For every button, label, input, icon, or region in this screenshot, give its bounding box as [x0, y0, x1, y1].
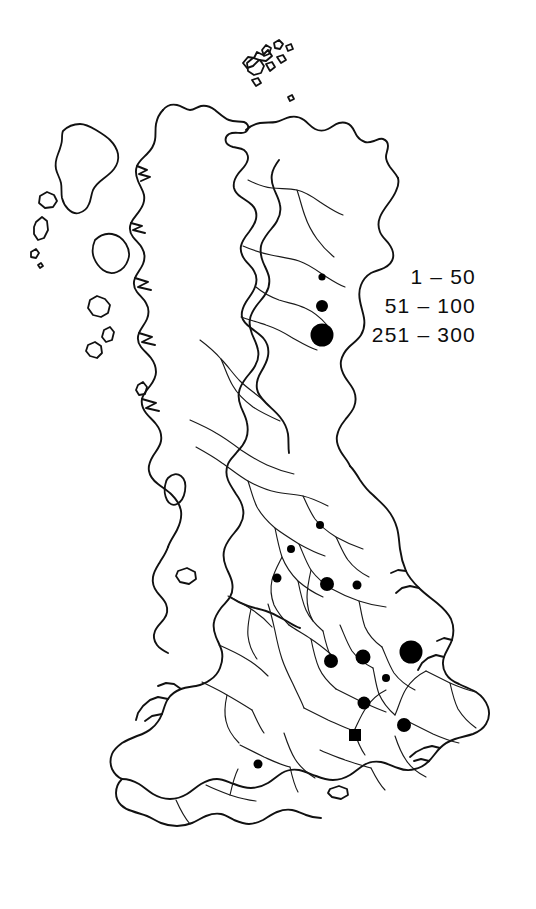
somerset-boundary	[240, 745, 290, 767]
fair-isle	[288, 95, 294, 101]
staffordshire-boundary	[323, 631, 331, 657]
durham-boundary	[336, 537, 369, 577]
wales-peninsula-detail	[136, 683, 181, 721]
cheshire-derbyshire-boundary	[298, 581, 323, 631]
wales-gwent-boundary	[252, 710, 264, 733]
south-uist-island	[34, 217, 48, 240]
orkney-island-4	[252, 78, 261, 86]
map-symbol-dot	[353, 581, 362, 590]
wash-estuary	[418, 638, 452, 670]
map-graphic	[0, 0, 536, 909]
tiny-island-west	[38, 263, 43, 268]
uk-distribution-map: 1 – 50 51 – 100 251 – 300	[0, 0, 536, 909]
map-symbol-dot	[273, 574, 282, 583]
islands-group	[31, 40, 348, 799]
anglesey-island	[176, 568, 196, 584]
skye-island	[93, 234, 129, 273]
england-east-coast	[122, 466, 489, 799]
map-symbol-square	[349, 729, 361, 741]
map-symbol-dot	[324, 654, 338, 668]
lewis-harris-island	[56, 124, 119, 213]
legend-label-large: 251 – 300	[344, 320, 476, 349]
legend-label-medium: 51 – 100	[344, 291, 476, 320]
northumberland-boundary	[303, 496, 363, 549]
map-symbol-dot	[400, 641, 423, 664]
humber-estuary	[391, 570, 419, 593]
yorkshire-north-boundary	[299, 544, 386, 607]
shetland-island-2	[274, 40, 283, 49]
wiltshire-boundary	[284, 733, 315, 778]
scotland-west-lochs	[130, 110, 181, 547]
yorkshire-humber-boundary	[359, 601, 382, 647]
arran-island	[136, 382, 147, 395]
coastline-group	[93, 50, 341, 828]
cumbria-boundary	[248, 481, 325, 556]
orkney-island-2	[266, 62, 275, 71]
wales-glamorgan-boundary	[225, 695, 239, 743]
sussex-boundary	[371, 768, 385, 790]
data-symbol-layer	[254, 521, 423, 769]
legend-row-medium: 51 – 100	[300, 291, 490, 320]
map-symbol-dot	[254, 760, 263, 769]
map-symbol-dot	[356, 650, 371, 665]
england-wales-coast-group	[111, 160, 490, 826]
map-symbol-dot	[316, 521, 324, 529]
dorset-boundary	[290, 767, 298, 792]
legend-swatch-medium-circle	[300, 291, 346, 320]
map-symbol-dot	[287, 545, 295, 553]
anglo-scottish-border	[196, 447, 328, 506]
barra-island	[31, 249, 39, 258]
wales-west-coast	[111, 160, 281, 779]
orkney-island-3	[277, 55, 286, 63]
wales-powys-boundary	[219, 645, 268, 676]
cornwall-boundary	[176, 800, 190, 824]
map-legend: 1 – 50 51 – 100 251 – 300	[300, 262, 490, 349]
scotland-grampian-boundary	[297, 190, 334, 257]
map-symbol-dot	[358, 697, 371, 710]
legend-row-large: 251 – 300	[300, 320, 490, 349]
kintyre-peninsula	[153, 547, 168, 653]
gloucestershire-boundary	[304, 708, 354, 731]
wales-clwyd-boundary	[248, 609, 257, 659]
map-symbol-dot	[382, 674, 390, 682]
legend-row-small: 1 – 50	[300, 262, 490, 291]
islay-island	[86, 342, 102, 358]
map-symbol-dot	[320, 577, 334, 591]
shetland-island-3	[286, 44, 293, 51]
scotland-north-coast	[246, 117, 398, 178]
north-uist-island	[39, 192, 57, 208]
northamptonshire-boundary	[395, 671, 426, 715]
cornwall-devon-peninsula	[116, 779, 321, 826]
map-symbol-dot	[397, 718, 411, 732]
scotland-highland-boundary	[248, 180, 343, 215]
legend-swatch-large-circle	[300, 320, 346, 349]
isle-of-man	[165, 474, 186, 505]
legend-swatch-small-circle	[300, 262, 346, 291]
legend-label-small: 1 – 50	[344, 262, 476, 291]
